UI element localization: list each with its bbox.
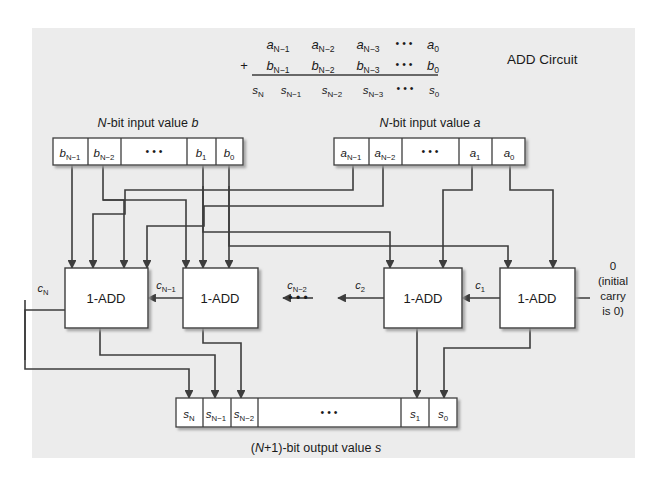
initial-carry-line1: (initial xyxy=(598,275,628,287)
svg-text:bN−3: bN−3 xyxy=(356,58,379,75)
initial-carry-line3: is 0) xyxy=(602,305,624,317)
adder-label-1: 1-ADD xyxy=(517,291,556,306)
wire-b-n2-branch xyxy=(103,200,186,268)
wire-a-1 xyxy=(443,164,472,268)
svg-text:sN−2: sN−2 xyxy=(322,84,343,99)
svg-text:sN: sN xyxy=(252,84,264,99)
wire-a-n1 xyxy=(93,164,353,268)
adder-label-n: 1-ADD xyxy=(86,291,125,306)
carry-label-n-1: cN−1 xyxy=(156,279,176,294)
wire-b-1-branch xyxy=(203,186,390,268)
wire-b-n2 xyxy=(103,164,124,268)
svg-text:a0: a0 xyxy=(427,37,439,54)
svg-text:bN−2: bN−2 xyxy=(311,58,334,75)
circuit-diagram-canvas: ADD Circuit aN−1 aN−2 aN−3 • • • a0 + bN… xyxy=(0,0,664,477)
sum-table-row-a: aN−1 aN−2 aN−3 • • • a0 xyxy=(266,37,439,54)
cell-s-ellipsis: • • • xyxy=(321,406,338,418)
svg-text:aN−2: aN−2 xyxy=(311,37,334,54)
sum-table-row-b: bN−1 bN−2 bN−3 • • • b0 xyxy=(266,58,439,75)
initial-carry-line2: carry xyxy=(600,290,626,302)
initial-carry-value: 0 xyxy=(610,260,616,272)
wire-s-0 xyxy=(444,328,530,398)
svg-text:• • •: • • • xyxy=(396,37,413,49)
wire-a-0 xyxy=(510,164,553,268)
wire-s-n2 xyxy=(203,328,241,398)
wire-b-0-branch xyxy=(229,186,508,268)
wire-carry-n xyxy=(25,310,65,360)
adder-label-n-1: 1-ADD xyxy=(200,291,239,306)
wire-a-n2 xyxy=(147,164,383,268)
carry-label-2: c2 xyxy=(355,279,365,294)
svg-text:aN−3: aN−3 xyxy=(356,37,379,54)
svg-text:bN−1: bN−1 xyxy=(266,58,289,75)
figure-title: ADD Circuit xyxy=(507,52,578,67)
initial-carry-note: 0 (initial carry is 0) xyxy=(598,260,628,317)
svg-text:b0: b0 xyxy=(427,58,439,75)
svg-text:• • •: • • • xyxy=(396,58,413,70)
svg-text:• • •: • • • xyxy=(397,82,414,94)
svg-text:sN−3: sN−3 xyxy=(363,84,384,99)
svg-text:aN−1: aN−1 xyxy=(266,37,289,54)
carry-label-n: cN xyxy=(38,282,49,297)
wire-s-n1 xyxy=(100,328,215,398)
cell-b-ellipsis: • • • xyxy=(146,145,163,157)
carry-label-1: c1 xyxy=(475,279,485,294)
input-a-caption: N-bit input value a xyxy=(380,116,481,130)
adder-label-2: 1-ADD xyxy=(403,291,442,306)
sum-table-row-s: sN sN−1 sN−2 sN−3 • • • s0 xyxy=(252,82,439,99)
sum-table-plus: + xyxy=(240,58,248,73)
input-b-caption: N-bit input value b xyxy=(98,116,199,130)
svg-text:s0: s0 xyxy=(429,84,440,99)
add-circuit-figure: ADD Circuit aN−1 aN−2 aN−3 • • • a0 + bN… xyxy=(0,0,664,477)
cell-a-ellipsis: • • • xyxy=(422,145,439,157)
svg-text:sN−1: sN−1 xyxy=(281,84,302,99)
output-s-caption: (N+1)-bit output value s xyxy=(251,441,381,455)
